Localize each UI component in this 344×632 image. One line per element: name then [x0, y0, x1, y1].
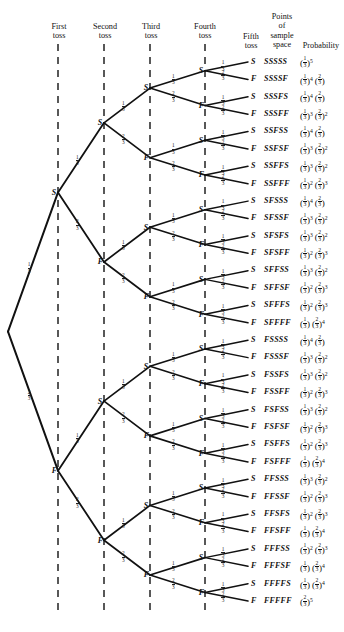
header-line: Fifth: [237, 32, 265, 41]
fifth-toss-outcome: F: [251, 75, 256, 83]
branch-label-two-thirds: 23: [122, 551, 125, 563]
sample-point: FSSSF: [264, 353, 289, 361]
edge-failure-l3: [150, 366, 205, 383]
column-header-first-toss: First toss: [40, 22, 78, 41]
outcome-probability: (13)3(23)2: [300, 161, 328, 173]
edge-failure-l4: [205, 418, 248, 427]
edge-failure-l4: [205, 488, 248, 497]
branch-label-two-thirds: 23: [172, 578, 175, 590]
sample-point: FSFSS: [264, 406, 289, 414]
outcome-probability: (13)2(23)3: [300, 491, 328, 503]
fifth-toss-outcome: F: [251, 145, 256, 153]
tree-node-s-24: S: [144, 501, 148, 510]
branch-label-one-third: 13: [28, 262, 31, 274]
fifth-toss-outcome: S: [251, 336, 255, 344]
tree-node-s-16: S: [98, 397, 102, 406]
header-line: of: [266, 21, 298, 30]
fifth-toss-outcome: S: [251, 127, 255, 135]
sample-point: SSSFF: [264, 110, 289, 118]
edge-failure-l1: [58, 192, 104, 262]
edge-failure-l3: [150, 505, 205, 522]
branch-label-two-thirds: 23: [76, 497, 79, 509]
branch-label-two-thirds: 23: [221, 522, 224, 534]
branch-label-one-third: 13: [172, 213, 175, 225]
edge-failure-l4: [205, 453, 248, 462]
edge-success-l4: [205, 514, 248, 523]
edge-failure-l3: [150, 575, 205, 592]
branch-label-two-thirds: 23: [221, 592, 224, 604]
fifth-toss-outcome: S: [251, 510, 255, 518]
tree-node-s-24: S: [199, 483, 203, 492]
outcome-probability: (13)(23)4: [300, 561, 325, 573]
edge-failure-l4: [205, 140, 248, 149]
outcome-probability: (13)2(23)3: [300, 439, 328, 451]
branch-label-two-thirds: 23: [221, 70, 224, 82]
outcome-probability: (13)3(23)2: [300, 404, 328, 416]
sample-point: SSFSS: [264, 127, 288, 135]
column-header-fourth-toss: Fourth toss: [185, 22, 225, 41]
edge-failure-l1: [58, 471, 104, 541]
sample-point: SFSSF: [264, 214, 289, 222]
branch-label-two-thirds: 23: [172, 300, 175, 312]
tree-node-s-0: S: [199, 66, 203, 75]
outcome-probability: (13)3(23)2: [300, 109, 328, 121]
edge-success-l4: [205, 479, 248, 488]
fifth-toss-outcome: S: [251, 406, 255, 414]
branch-label-two-thirds: 23: [221, 383, 224, 395]
outcome-probability: (13)2(23)3: [300, 422, 328, 434]
tree-node-s-8: S: [199, 205, 203, 214]
edge-failure-l4: [205, 558, 248, 567]
fifth-toss-outcome: F: [251, 423, 256, 431]
edge-success-l3: [150, 140, 205, 157]
fifth-toss-outcome: F: [251, 284, 256, 292]
branch-label-two-thirds: 23: [221, 418, 224, 430]
edge-failure-l4: [205, 245, 248, 254]
sample-point: SSFFS: [264, 162, 289, 170]
edge-success-l4: [205, 549, 248, 558]
fifth-toss-outcome: F: [251, 214, 256, 222]
sample-point: SSSSS: [264, 58, 287, 66]
branch-label-one-third: 13: [76, 433, 79, 445]
branch-label-two-thirds: 23: [122, 134, 125, 146]
header-line: Points: [266, 12, 298, 21]
header-line: toss: [185, 31, 225, 40]
outcome-probability: (23)5: [300, 595, 313, 607]
branch-label-one-third: 13: [172, 561, 175, 573]
column-header-second-toss: Second toss: [85, 22, 125, 41]
tree-node-s-8: S: [144, 223, 148, 232]
outcome-probability: (13)4(23): [300, 126, 325, 138]
sample-point: FSSFS: [264, 371, 289, 379]
branch-label-two-thirds: 23: [122, 273, 125, 285]
outcome-probability: (13)2(23)3: [300, 248, 328, 260]
sample-point: SSSSF: [264, 75, 288, 83]
fifth-toss-outcome: F: [251, 180, 256, 188]
fifth-toss-outcome: S: [251, 371, 255, 379]
branch-label-two-thirds: 23: [221, 140, 224, 152]
outcome-probability: (13)3(23)2: [300, 352, 328, 364]
outcome-probability: (13)3(23)2: [300, 230, 328, 242]
branch-label-one-third: 13: [172, 143, 175, 155]
branch-label-two-thirds: 23: [221, 487, 224, 499]
branch-label-two-thirds: 23: [221, 244, 224, 256]
edge-failure-l3: [150, 297, 205, 314]
fifth-toss-outcome: S: [251, 545, 255, 553]
header-line: toss: [85, 31, 125, 40]
header-line: Probability: [298, 41, 344, 50]
edge-failure-l4: [205, 175, 248, 184]
sample-point: SFSFS: [264, 232, 289, 240]
fifth-toss-outcome: F: [251, 562, 256, 570]
header-line: toss: [132, 31, 170, 40]
branch-label-two-thirds: 23: [172, 370, 175, 382]
tree-node-s-16: S: [144, 362, 148, 371]
fifth-toss-outcome: S: [251, 580, 255, 588]
branch-label-one-third: 13: [172, 491, 175, 503]
sample-point: SFSFF: [264, 249, 290, 257]
branch-label-one-third: 13: [172, 422, 175, 434]
sample-point: FFFSS: [264, 545, 290, 553]
sample-point: FFSFF: [264, 527, 291, 535]
sample-point: FSFSF: [264, 423, 290, 431]
sample-point: FSSFF: [264, 388, 290, 396]
branch-label-two-thirds: 23: [172, 439, 175, 451]
fifth-toss-outcome: S: [251, 440, 255, 448]
outcome-probability: (13)4(23): [300, 196, 325, 208]
